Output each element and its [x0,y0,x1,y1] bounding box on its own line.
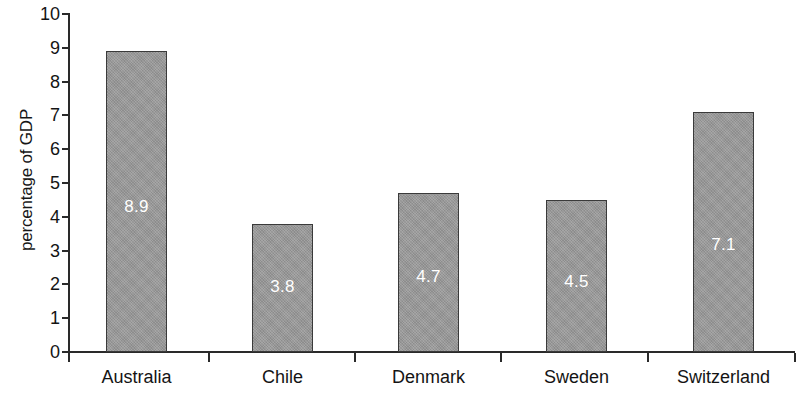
bar-value-label: 3.8 [253,278,312,295]
x-axis-tick-mark [647,353,649,362]
y-axis-tick-labels: 109876543210 [32,0,60,398]
y-axis-tick-label: 9 [34,39,60,57]
y-axis-tick-label: 1 [34,309,60,327]
bar-value-label: 7.1 [694,236,753,253]
bar: 4.5 [546,200,607,352]
bar: 3.8 [252,224,313,352]
y-axis-tick-label: 7 [34,106,60,124]
bar: 7.1 [693,112,754,352]
bar: 4.7 [398,193,459,352]
x-axis-category-label: Switzerland [634,366,799,388]
x-axis-tick-mark [354,353,356,362]
y-axis-tick-label: 0 [34,343,60,361]
bar: 8.9 [106,51,167,352]
y-axis-tick-label: 4 [34,208,60,226]
x-axis-tick-mark [208,353,210,362]
x-axis-tick-mark [794,353,796,362]
y-axis-tick-label: 3 [34,242,60,260]
y-axis-tick-label: 2 [34,275,60,293]
x-axis-tick-mark [500,353,502,362]
bar-value-label: 4.7 [399,268,458,285]
y-axis-tick-label: 10 [34,5,60,23]
y-axis-tick-label: 6 [34,140,60,158]
bar-value-label: 4.5 [547,273,606,290]
y-axis-tick-label: 5 [34,174,60,192]
bar-value-label: 8.9 [107,198,166,215]
x-axis-tick-mark [68,353,70,362]
y-axis-tick-label: 8 [34,73,60,91]
plot-area: 8.93.84.74.57.1 [68,14,794,352]
bar-chart: percentage of GDP 109876543210 8.93.84.7… [0,0,799,398]
